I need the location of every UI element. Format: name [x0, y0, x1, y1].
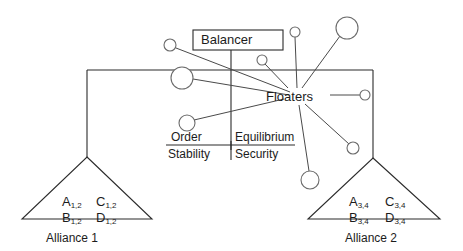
member-subscript: 3,4: [358, 217, 369, 226]
alliance-1-caption: Alliance 1: [46, 232, 98, 244]
member-letter: C: [96, 194, 105, 209]
alliance-1-member: D1,2: [96, 210, 117, 225]
floater-bottom-large: [301, 171, 319, 189]
member-letter: B: [349, 210, 358, 225]
alliance-1-triangle: [22, 157, 152, 219]
member-subscript: 3,4: [394, 201, 405, 210]
alliance-1-member: A1,2: [62, 194, 82, 209]
diagram-canvas: Balancer Floaters Order Stability Equili…: [0, 0, 463, 251]
member-subscript: 1,2: [71, 201, 82, 210]
member-subscript: 1,2: [71, 217, 82, 226]
balancer-label: Balancer: [201, 33, 252, 46]
member-letter: D: [96, 210, 105, 225]
alliance-1-triangle-outline: [22, 157, 152, 219]
member-letter: A: [62, 194, 71, 209]
alliance-2-member: C3,4: [385, 194, 406, 209]
floater-left-large: [171, 67, 193, 89]
member-letter: B: [62, 210, 71, 225]
stability-label: Stability: [168, 148, 210, 160]
member-subscript: 1,2: [105, 217, 116, 226]
alliance-1-member: B1,2: [62, 210, 82, 225]
floaters-label: Floaters: [266, 90, 313, 103]
floater-top-left-small: [164, 39, 176, 51]
connector-to-top-right-large: [302, 36, 340, 88]
alliance-2-triangle: [308, 158, 440, 219]
connector-to-top-stem-small: [295, 37, 297, 88]
connector-to-bottom-large: [299, 105, 309, 171]
security-label: Security: [235, 148, 278, 160]
floater-mid-small: [257, 55, 267, 65]
member-letter: A: [349, 194, 358, 209]
alliance-2-member: A3,4: [349, 194, 369, 209]
member-subscript: 3,4: [394, 217, 405, 226]
floater-right-small: [360, 90, 370, 100]
alliance-2-triangle-outline: [308, 158, 440, 219]
alliance-2-member: D3,4: [385, 210, 406, 225]
member-letter: D: [385, 210, 394, 225]
order-label: Order: [171, 131, 202, 143]
floater-lower-right-small: [347, 142, 359, 154]
floater-order-small: [179, 115, 195, 131]
equilibrium-label: Equilibrium: [235, 131, 294, 143]
alliance-1-member: C1,2: [96, 194, 117, 209]
member-letter: C: [385, 194, 394, 209]
alliance-2-member: B3,4: [349, 210, 369, 225]
connector-to-lower-right-small: [305, 104, 349, 144]
connector-to-mid-small: [265, 64, 288, 88]
floater-top-right-large: [336, 17, 358, 39]
member-subscript: 3,4: [358, 201, 369, 210]
floater-top-stem-small: [290, 27, 300, 37]
member-subscript: 1,2: [105, 201, 116, 210]
alliance-2-caption: Alliance 2: [345, 232, 397, 244]
